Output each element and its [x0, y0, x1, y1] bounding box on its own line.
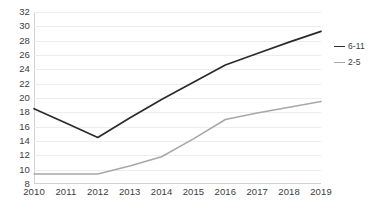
legend-item-2-5[interactable]: 2-5	[334, 54, 379, 70]
legend-line-icon	[334, 62, 345, 63]
y-tick-label: 30	[19, 22, 30, 32]
y-tick-label: 10	[19, 165, 30, 175]
line-chart: 3230282624222018161412108 20102011201220…	[0, 0, 379, 211]
legend-label: 6-11	[348, 42, 365, 51]
legend-label: 2-5	[348, 58, 361, 67]
y-tick-label: 26	[19, 50, 30, 60]
series-line-2-5	[34, 102, 321, 174]
x-tick-label: 2011	[55, 187, 76, 197]
legend-line-icon	[334, 46, 345, 47]
y-tick-label: 20	[19, 93, 30, 103]
y-tick-label: 14	[19, 136, 30, 146]
y-tick-label: 32	[19, 7, 30, 17]
series-line-6-11	[34, 31, 321, 137]
plot-area	[34, 12, 321, 184]
x-tick-label: 2019	[310, 187, 332, 197]
y-tick-label: 28	[19, 36, 30, 46]
x-tick-label: 2015	[183, 187, 205, 197]
chart-legend: 6-112-5	[334, 38, 379, 70]
x-tick-label: 2010	[23, 187, 45, 197]
y-tick-label: 24	[19, 65, 30, 75]
x-tick-label: 2012	[87, 187, 109, 197]
y-tick-label: 12	[19, 151, 30, 161]
x-tick-label: 2014	[151, 187, 173, 197]
x-axis: 2010201120122013201420152016201720182019	[34, 187, 321, 205]
y-axis: 3230282624222018161412108	[0, 12, 30, 184]
y-tick-label: 18	[19, 108, 30, 118]
y-tick-label: 22	[19, 79, 30, 89]
x-tick-label: 2017	[246, 187, 268, 197]
x-tick-label: 2018	[278, 187, 300, 197]
x-tick-label: 2016	[215, 187, 237, 197]
series-lines	[34, 12, 321, 184]
x-tick-label: 2013	[119, 187, 141, 197]
legend-item-6-11[interactable]: 6-11	[334, 38, 379, 54]
y-tick-label: 16	[19, 122, 30, 132]
